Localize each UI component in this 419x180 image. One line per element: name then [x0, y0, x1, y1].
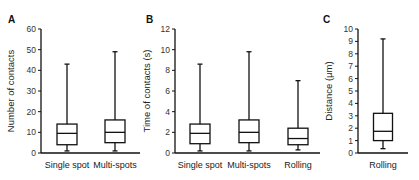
x-category-label: Single spot — [178, 160, 223, 170]
box-single-spot: Single spot — [178, 64, 223, 170]
y-tick-label: 10 — [27, 127, 37, 137]
box-iqr — [57, 124, 77, 145]
y-tick-label: 10 — [344, 24, 354, 34]
y-tick-label: 7 — [348, 61, 353, 71]
y-tick-label: 2 — [348, 123, 353, 133]
box-multi-spots: Multi-spots — [93, 52, 137, 170]
y-tick-label: 40 — [27, 65, 37, 75]
box-iqr — [374, 113, 393, 140]
panel-letter: C — [323, 14, 330, 25]
box-iqr — [239, 120, 259, 143]
y-tick-label: 6 — [348, 74, 353, 84]
y-tick-label: 2 — [165, 127, 170, 137]
y-axis-title: Time of contacts (s) — [141, 49, 152, 132]
y-tick-label: 8 — [165, 65, 170, 75]
box-iqr — [105, 120, 125, 143]
y-tick-label: 12 — [161, 24, 171, 34]
panel-b: B024681012Time of contacts (s)Single spo… — [141, 14, 320, 170]
panel-c: C012345678910Distance (μm)Rolling — [323, 14, 408, 170]
y-tick-label: 4 — [165, 107, 170, 117]
box-single-spot: Single spot — [45, 64, 90, 170]
y-axis-title: Distance (μm) — [323, 61, 334, 120]
y-tick-label: 4 — [348, 98, 353, 108]
box-rolling: Rolling — [284, 81, 312, 170]
y-tick-label: 20 — [27, 107, 37, 117]
y-tick-label: 3 — [348, 111, 353, 121]
y-tick-label: 60 — [27, 24, 37, 34]
box-plot-figure: A0102030405060Number of contactsSingle s… — [0, 0, 419, 180]
y-tick-label: 0 — [165, 148, 170, 158]
box-iqr — [288, 128, 308, 145]
y-tick-label: 0 — [31, 148, 36, 158]
y-tick-label: 6 — [165, 86, 170, 96]
y-tick-label: 8 — [348, 49, 353, 59]
y-axis-title: Number of contacts — [5, 50, 16, 133]
y-tick-label: 0 — [348, 148, 353, 158]
x-category-label: Rolling — [284, 160, 312, 170]
panel-letter: B — [146, 14, 153, 25]
y-tick-label: 9 — [348, 36, 353, 46]
y-tick-label: 10 — [161, 45, 171, 55]
y-tick-label: 50 — [27, 45, 37, 55]
panel-letter: A — [8, 14, 15, 25]
y-tick-label: 30 — [27, 86, 37, 96]
y-tick-label: 5 — [348, 86, 353, 96]
x-category-label: Single spot — [45, 160, 90, 170]
x-category-label: Multi-spots — [227, 160, 271, 170]
panel-a: A0102030405060Number of contactsSingle s… — [5, 14, 140, 170]
x-category-label: Rolling — [369, 160, 397, 170]
box-multi-spots: Multi-spots — [227, 52, 271, 170]
box-rolling: Rolling — [369, 39, 397, 170]
x-category-label: Multi-spots — [93, 160, 137, 170]
y-tick-label: 1 — [348, 136, 353, 146]
